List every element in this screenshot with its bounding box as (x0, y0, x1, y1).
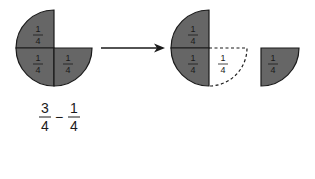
expr-left-num: 3 (41, 100, 49, 116)
label-top-left-num: 1 (190, 24, 195, 34)
fraction-subtraction-diagram: 1 4 1 4 1 4 1 4 1 4 1 4 1 4 3 (0, 0, 315, 179)
label-bottom-right-num: 1 (220, 53, 225, 63)
label-removed-num: 1 (270, 53, 275, 63)
before-shape: 1 4 1 4 1 4 (16, 10, 92, 86)
quarter-bottom-right (54, 48, 92, 86)
label-bottom-left-num: 1 (35, 53, 40, 63)
expression: 3 4 − 1 4 (39, 100, 80, 134)
label-top-left-num: 1 (35, 24, 40, 34)
after-shape: 1 4 1 4 1 4 (171, 10, 247, 86)
label-bottom-left-den: 4 (190, 65, 195, 75)
removed-quarter: 1 4 (261, 48, 299, 86)
expr-left-den: 4 (41, 118, 49, 134)
label-top-left-den: 4 (35, 36, 40, 46)
expr-right-den: 4 (70, 118, 78, 134)
label-bottom-right-den: 4 (220, 65, 225, 75)
label-bottom-left-num: 1 (190, 53, 195, 63)
label-removed-den: 4 (270, 65, 275, 75)
arrow-right-icon (101, 44, 165, 53)
label-top-left-den: 4 (190, 36, 195, 46)
expr-right-num: 1 (70, 100, 78, 116)
label-bottom-left-den: 4 (35, 65, 40, 75)
label-bottom-right-den: 4 (65, 65, 70, 75)
quarter-bottom-right-dashed (209, 48, 247, 86)
label-bottom-right-num: 1 (65, 53, 70, 63)
expr-operator: − (55, 109, 63, 125)
